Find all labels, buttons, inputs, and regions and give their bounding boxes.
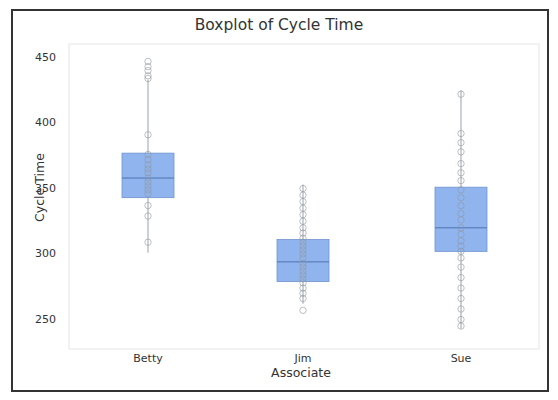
- y-axis-label: Cycle Time: [32, 143, 47, 233]
- x-category-label: Jim: [263, 352, 343, 365]
- y-tick-label: 250: [16, 313, 56, 326]
- x-category-label: Sue: [421, 352, 501, 365]
- x-axis-label: Associate: [0, 365, 558, 380]
- iqr-box: [122, 153, 174, 198]
- boxplot-svg: [0, 0, 558, 400]
- iqr-box: [277, 240, 329, 282]
- y-tick-label: 450: [16, 51, 56, 64]
- x-category-label: Betty: [108, 352, 188, 365]
- iqr-box: [435, 187, 487, 251]
- y-tick-label: 400: [16, 116, 56, 129]
- y-tick-label: 300: [16, 247, 56, 260]
